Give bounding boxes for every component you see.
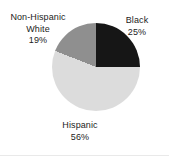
slice-label-black-name: Black xyxy=(126,15,149,25)
slice-label-hispanic-name: Hispanic xyxy=(62,120,97,130)
slice-label-black: Black 25% xyxy=(111,15,163,38)
slice-label-non-hispanic-white-line1: Non-Hispanic xyxy=(10,12,65,22)
slice-label-hispanic: Hispanic 56% xyxy=(39,120,121,143)
slice-value-black: 25% xyxy=(128,27,146,37)
slice-label-non-hispanic-white: Non-Hispanic White 19% xyxy=(4,12,72,47)
slice-value-hispanic: 56% xyxy=(71,132,89,142)
slice-value-non-hispanic-white: 19% xyxy=(29,35,47,45)
pie-chart-figure: Non-Hispanic White 19% Black 25% Hispani… xyxy=(0,0,169,162)
slice-label-non-hispanic-white-line2: White xyxy=(26,24,50,34)
bottom-divider xyxy=(0,155,169,156)
